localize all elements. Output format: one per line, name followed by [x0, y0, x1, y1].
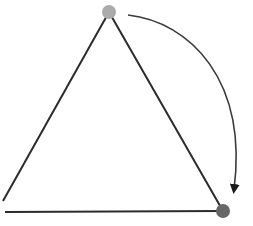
top-vertex-dot	[102, 5, 116, 19]
diagram-canvas	[0, 0, 253, 226]
bottom-right-vertex-dot	[216, 204, 230, 218]
bottom-edge	[5, 211, 222, 212]
triangle-rotation-diagram	[0, 0, 253, 226]
left-edge	[3, 12, 109, 201]
rotation-arrow	[128, 15, 236, 190]
right-edge	[109, 12, 223, 211]
